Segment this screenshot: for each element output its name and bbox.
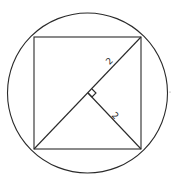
right-angle-marker bbox=[88, 89, 96, 97]
geometry-diagram: 2 2 bbox=[0, 0, 176, 182]
perpendicular-segment bbox=[88, 93, 141, 149]
label-perpendicular: 2 bbox=[110, 110, 121, 121]
label-diagonal-half: 2 bbox=[104, 56, 115, 67]
stray-dot bbox=[169, 91, 170, 92]
